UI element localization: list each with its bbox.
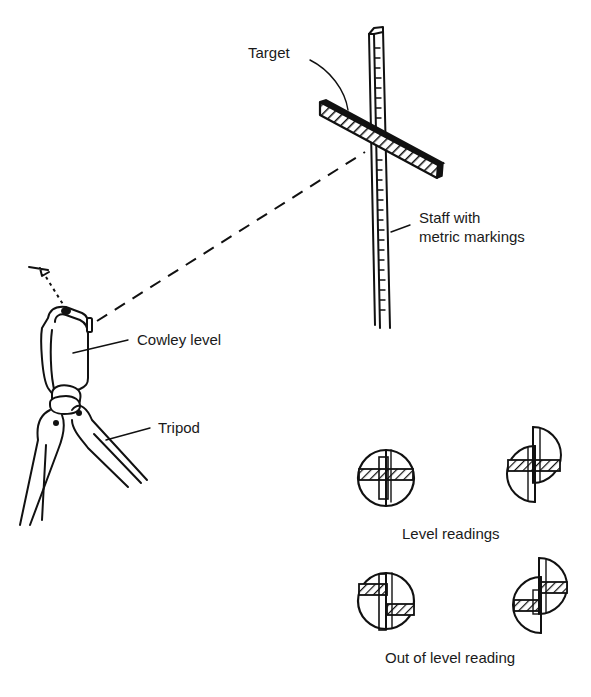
- label-cowley-level: Cowley level: [137, 331, 221, 348]
- tripod: [20, 396, 147, 525]
- cowley-level-diagram: Target Staff with metric markings Cowley…: [0, 0, 591, 697]
- staff: [369, 27, 390, 328]
- staff-leader-line: [391, 225, 410, 232]
- label-staff-line2: metric markings: [419, 228, 525, 245]
- label-tripod: Tripod: [158, 419, 200, 436]
- tripod-leader-line: [106, 428, 150, 440]
- label-staff-line1: Staff with: [419, 209, 480, 226]
- target-crossbar: [320, 100, 443, 178]
- sight-line: [97, 152, 365, 321]
- out-of-level-reading-1: [358, 573, 414, 630]
- eye-sight-dotted-line: [46, 277, 64, 306]
- level-reading-2: [507, 427, 561, 502]
- out-of-level-reading-2: [513, 558, 567, 633]
- level-reading-1: [358, 450, 414, 506]
- label-target: Target: [248, 44, 291, 61]
- eye-icon: [29, 267, 49, 276]
- label-out-of-level-reading: Out of level reading: [385, 649, 515, 666]
- label-level-readings: Level readings: [402, 525, 500, 542]
- cowley-level-instrument: [41, 307, 92, 408]
